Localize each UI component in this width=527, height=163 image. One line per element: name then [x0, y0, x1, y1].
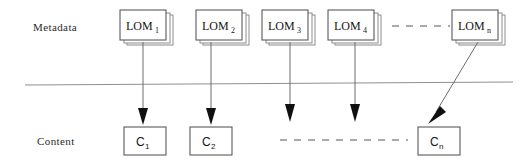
content-node-c2-base: C	[202, 135, 211, 149]
content-node-cn[interactable]: C n	[418, 127, 460, 155]
row-label-metadata: Metadata	[33, 21, 77, 33]
metadata-node-lom2[interactable]: LOM 2	[196, 10, 249, 45]
metadata-node-lom1-subscript: 1	[155, 26, 159, 35]
arrow-head-icon	[206, 108, 216, 125]
metadata-node-lom3[interactable]: LOM 3	[262, 10, 315, 45]
metadata-node-lom2-base: LOM	[202, 19, 229, 33]
connector-lom1-to-c1	[138, 42, 148, 125]
metadata-node-lom4-subscript: 4	[363, 26, 367, 35]
diagram-canvas: Metadata Content LOM 1 LOM 2 LOM 3	[0, 0, 527, 163]
metadata-node-lom1[interactable]: LOM 1	[120, 10, 173, 45]
arrow-head-icon	[350, 104, 360, 122]
content-node-c2[interactable]: C 2	[190, 127, 232, 155]
metadata-node-lom3-subscript: 3	[297, 26, 301, 35]
connector-lomn-to-cn	[428, 42, 478, 124]
content-node-c1[interactable]: C 1	[124, 127, 166, 155]
metadata-node-lomn-base: LOM	[458, 19, 485, 33]
content-node-c1-subscript: 1	[145, 142, 150, 151]
metadata-node-lomn[interactable]: LOM n	[452, 10, 505, 45]
content-node-c2-subscript: 2	[211, 142, 216, 151]
metadata-node-lom2-subscript: 2	[231, 26, 235, 35]
content-node-cn-subscript: n	[439, 142, 443, 151]
metadata-node-lom1-base: LOM	[126, 19, 153, 33]
arrow-head-icon	[285, 104, 295, 122]
metadata-node-lom4-base: LOM	[334, 19, 361, 33]
metadata-node-lom3-base: LOM	[268, 19, 295, 33]
metadata-node-lom4[interactable]: LOM 4	[328, 10, 381, 45]
connector-lom4-to-content-ellipsis	[350, 42, 360, 122]
lom-content-diagram: Metadata Content LOM 1 LOM 2 LOM 3	[0, 0, 527, 163]
connector-lom3-to-content-ellipsis	[285, 42, 295, 122]
arrow-head-icon	[428, 106, 446, 124]
metadata-node-lomn-subscript: n	[487, 26, 491, 35]
layer-separator-line	[25, 82, 513, 85]
content-node-c1-base: C	[136, 135, 145, 149]
arrow-head-icon	[138, 108, 148, 125]
row-label-content: Content	[37, 135, 75, 147]
content-node-cn-base: C	[430, 135, 439, 149]
